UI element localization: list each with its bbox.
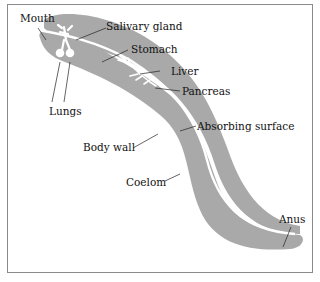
leader-body-wall xyxy=(133,134,158,148)
label-lungs: Lungs xyxy=(49,106,82,117)
label-mouth: Mouth xyxy=(20,13,55,24)
leader-lungs-left xyxy=(52,62,60,102)
label-coelom: Coelom xyxy=(126,177,166,188)
label-body-wall: Body wall xyxy=(83,142,135,153)
label-stomach: Stomach xyxy=(131,44,178,55)
label-salivary-gland: Salivary gland xyxy=(106,21,182,32)
leader-lungs-right xyxy=(64,62,70,102)
label-anus: Anus xyxy=(279,214,306,225)
label-liver: Liver xyxy=(171,66,199,77)
label-pancreas: Pancreas xyxy=(182,86,230,97)
label-absorbing-surface: Absorbing surface xyxy=(197,121,294,132)
leader-coelom xyxy=(165,174,180,181)
